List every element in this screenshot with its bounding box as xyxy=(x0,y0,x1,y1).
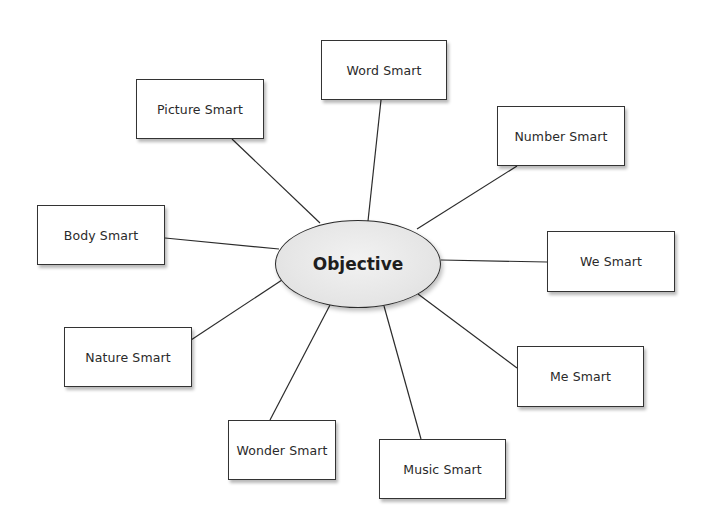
connector-line-number xyxy=(417,166,517,229)
center-node-objective[interactable]: Objective xyxy=(275,220,441,308)
node-wonder-smart[interactable]: Wonder Smart xyxy=(228,420,336,480)
connector-line-body xyxy=(165,238,279,249)
node-label: Body Smart xyxy=(64,228,138,243)
node-picture-smart[interactable]: Picture Smart xyxy=(136,79,264,139)
node-label: Wonder Smart xyxy=(237,443,328,458)
connector-line-we xyxy=(441,260,547,262)
node-body-smart[interactable]: Body Smart xyxy=(37,205,165,265)
node-number-smart[interactable]: Number Smart xyxy=(497,106,625,166)
node-label: Word Smart xyxy=(347,63,422,78)
node-label: Picture Smart xyxy=(157,102,243,117)
node-word-smart[interactable]: Word Smart xyxy=(321,40,447,100)
node-music-smart[interactable]: Music Smart xyxy=(379,439,506,499)
node-label: Nature Smart xyxy=(85,350,170,365)
center-node-label: Objective xyxy=(313,254,404,274)
mind-map-diagram: Objective Word Smart Picture Smart Numbe… xyxy=(0,0,710,522)
connector-line-nature xyxy=(191,280,282,340)
connector-line-picture xyxy=(232,139,320,223)
node-nature-smart[interactable]: Nature Smart xyxy=(64,327,192,387)
connector-line-music xyxy=(384,306,421,439)
node-label: Me Smart xyxy=(550,369,611,384)
connector-line-word xyxy=(368,100,381,221)
node-label: Music Smart xyxy=(403,462,481,477)
connector-line-me xyxy=(418,294,517,368)
connector-line-wonder xyxy=(270,305,330,420)
node-me-smart[interactable]: Me Smart xyxy=(517,346,644,407)
node-we-smart[interactable]: We Smart xyxy=(547,231,675,292)
node-label: We Smart xyxy=(580,254,642,269)
node-label: Number Smart xyxy=(514,129,607,144)
